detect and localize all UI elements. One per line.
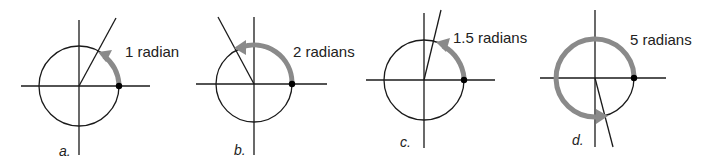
panel-a: 1 radian a. bbox=[21, 18, 179, 159]
angle-label: 1 radian bbox=[125, 43, 179, 60]
panel-tag: b. bbox=[234, 142, 246, 158]
panel-d: 5 radians d. bbox=[540, 10, 692, 148]
panel-c: 1.5 radians c. bbox=[366, 10, 527, 150]
angle-label: 1.5 radians bbox=[453, 29, 527, 46]
panel-tag: a. bbox=[59, 143, 71, 159]
angle-ray bbox=[424, 10, 441, 80]
angle-label: 5 radians bbox=[630, 31, 692, 48]
start-point bbox=[631, 75, 637, 81]
panel-tag: c. bbox=[400, 134, 411, 150]
panel-tag: d. bbox=[572, 132, 584, 148]
start-point bbox=[116, 83, 122, 89]
radians-diagram: 1 radian a. 2 radians b. 1.5 radians c. bbox=[0, 0, 721, 166]
start-point bbox=[289, 81, 295, 87]
angle-ray bbox=[218, 17, 254, 84]
arrowhead-icon bbox=[234, 40, 246, 55]
panel-b: 2 radians b. bbox=[196, 17, 355, 158]
angle-label: 2 radians bbox=[293, 43, 355, 60]
start-point bbox=[461, 77, 467, 83]
